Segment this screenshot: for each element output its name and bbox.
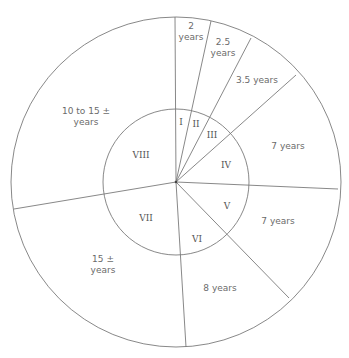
divider-i-ii <box>176 21 211 182</box>
sector-numeral-iv: IV <box>221 160 232 170</box>
sector-numeral-i: I <box>179 117 183 127</box>
divider-vii-viii <box>14 182 176 209</box>
age-wheel-diagram: IIIIIIIVVVIVIIVIII 2years2.5years3.5 yea… <box>0 0 349 358</box>
divider-vi-vii <box>176 182 186 347</box>
sector-numeral-vii: VII <box>138 213 153 223</box>
divider-i-viii <box>175 17 176 182</box>
sector-age-label-vii: 15 ±years <box>91 254 116 275</box>
sector-age-label-i: 2years <box>179 21 204 42</box>
divider-iv-v <box>176 182 338 189</box>
sector-numeral-v: V <box>223 201 231 211</box>
sector-numeral-vi: VI <box>191 234 202 244</box>
sector-age-label-vi: 8 years <box>203 283 237 293</box>
sector-age-label-viii: 10 to 15 ±years <box>62 106 110 127</box>
sector-age-label-iv: 7 years <box>271 141 305 151</box>
sector-age-labels: 2years2.5years3.5 years7 years7 years8 y… <box>62 21 305 293</box>
sector-numeral-viii: VIII <box>131 150 150 160</box>
sector-numerals: IIIIIIIVVVIVIIVIII <box>131 117 231 244</box>
sector-numeral-iii: III <box>207 130 218 140</box>
center-point <box>175 181 178 184</box>
sector-age-label-v: 7 years <box>261 216 295 226</box>
sector-age-label-ii: 2.5years <box>211 37 236 58</box>
sector-age-label-iii: 3.5 years <box>236 75 278 85</box>
sector-numeral-ii: II <box>192 119 200 129</box>
